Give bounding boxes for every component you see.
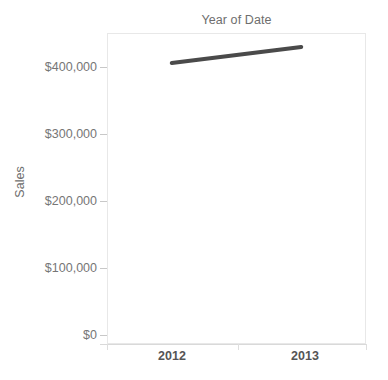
x-tick-mark-middle <box>238 344 239 350</box>
y-tick-label-0: $0 <box>83 328 97 342</box>
y-tick-mark-300000 <box>100 134 107 135</box>
x-tick-mark-end <box>366 344 367 350</box>
y-tick-mark-100000 <box>100 268 107 269</box>
x-axis-line <box>100 344 366 345</box>
y-tick-mark-200000 <box>100 201 107 202</box>
line-chart-view: Year of Date Sales $400,000 $300,000 $20… <box>0 0 388 380</box>
x-tick-label-2013: 2013 <box>291 349 319 363</box>
y-tick-label-400000: $400,000 <box>45 60 97 74</box>
y-axis-title: Sales <box>13 154 27 210</box>
chart-title: Year of Date <box>107 13 366 27</box>
x-tick-mark-start <box>107 344 108 350</box>
y-tick-mark-400000 <box>100 67 107 68</box>
y-tick-label-200000: $200,000 <box>45 194 97 208</box>
y-tick-label-300000: $300,000 <box>45 127 97 141</box>
y-tick-mark-0 <box>100 335 107 336</box>
plot-area <box>107 33 366 344</box>
x-tick-label-2012: 2012 <box>158 349 186 363</box>
y-tick-label-100000: $100,000 <box>45 261 97 275</box>
